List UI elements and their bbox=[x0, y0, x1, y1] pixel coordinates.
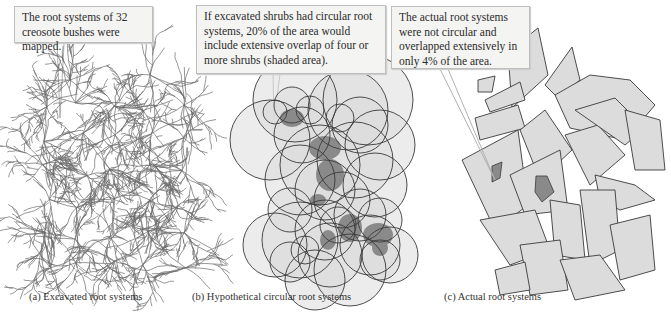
callout-c-text: The actual root systems were not circula… bbox=[399, 11, 517, 67]
callout-b: If excavated shrubs had circular root sy… bbox=[196, 5, 386, 74]
caption-b: (b) Hypothetical circular root systems bbox=[192, 291, 351, 302]
caption-c: (c) Actual root systems bbox=[444, 291, 541, 302]
caption-a: (a) Excavated root systems bbox=[29, 291, 142, 302]
overlap-region bbox=[280, 109, 304, 127]
callout-b-text: If excavated shrubs had circular root sy… bbox=[204, 10, 372, 66]
panel-actual-roots: The actual root systems were not circula… bbox=[450, 0, 671, 313]
callout-c: The actual root systems were not circula… bbox=[391, 6, 530, 69]
callout-a: The root systems of 32 creosote bushes w… bbox=[14, 6, 153, 43]
